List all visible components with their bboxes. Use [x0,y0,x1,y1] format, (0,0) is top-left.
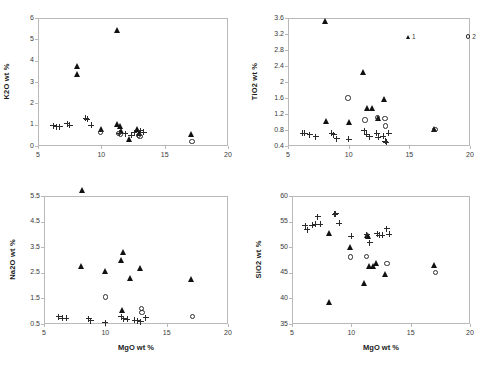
x-axis-tick-label: 20 [458,151,482,158]
plus-marker [334,136,340,142]
y-axis-tick-label: 2.8 [264,46,284,53]
plus-marker [317,221,323,227]
data-point-series-1 [188,131,194,137]
data-point-series-2 [433,270,438,275]
open-circle-marker [345,95,350,100]
y-axis-tick-label: 0 [16,142,34,149]
plus-marker [346,136,352,142]
y-axis-tick-label: 1.6 [264,94,284,101]
legend-item-1[interactable]: 1 [406,33,416,40]
filled-triangle-marker [326,299,332,305]
filled-triangle-marker [74,63,80,69]
data-point-series-3 [67,122,73,128]
filled-triangle-marker [360,69,366,75]
data-point-series-1 [188,276,194,282]
x-tickmark [349,146,350,149]
x-axis-tick-label: 10 [89,151,113,158]
open-circle-marker [189,139,194,144]
data-point-series-3 [88,318,94,324]
y-axis-title-bottom-right: SiO2 wt % [254,230,263,290]
open-circle-marker [348,254,353,259]
filled-triangle-marker [323,118,329,124]
data-point-series-3 [346,136,352,142]
data-point-series-1 [74,63,80,69]
legend-item-2[interactable]: 2 [466,33,476,40]
x-tickmark [38,146,39,149]
open-circle-marker [384,261,389,266]
y-tickmark [35,103,38,104]
y-axis-tick-label: 3.2 [264,30,284,37]
plot-area-bottom-left [44,196,228,324]
open-circle-marker [382,116,387,121]
x-axis-title-bottom-right: MgO wt % [292,343,470,352]
y-tickmark [35,125,38,126]
plus-marker [367,134,373,140]
open-circle-marker [375,115,380,120]
x-axis-tick-label: 15 [153,151,177,158]
y-tickmark [285,114,288,115]
y-axis-tick-label: 2 [264,78,284,85]
data-point-series-3 [348,233,354,239]
data-point-series-3 [88,122,94,128]
x-tickmark [44,324,45,327]
filled-triangle-marker [188,276,194,282]
plus-marker [383,139,389,145]
y-axis-tick-label: 60 [268,192,288,199]
data-point-series-3 [364,232,370,238]
x-axis-tick-label: 20 [216,151,240,158]
plus-marker [364,232,370,238]
filled-triangle-marker [78,263,84,269]
x-axis-tick-label: 5 [32,329,56,336]
data-point-series-3 [116,130,122,136]
data-point-series-1 [102,268,108,274]
data-point-series-1 [326,299,332,305]
y-tickmark [41,298,44,299]
data-point-series-1 [118,257,124,263]
plus-marker [379,232,385,238]
data-point-series-1 [114,27,120,33]
data-point-series-3 [333,211,339,217]
data-point-series-2 [189,139,194,144]
filled-triangle-marker [102,268,108,274]
filled-triangle-marker [347,244,353,250]
data-point-series-1 [360,69,366,75]
y-tickmark [285,18,288,19]
data-point-series-3 [367,240,373,246]
legend-label: 1 [412,33,416,40]
data-point-series-3 [383,139,389,145]
x-axis-tick-label: 10 [93,329,117,336]
y-tickmark [35,61,38,62]
data-point-series-2 [345,95,350,100]
y-tickmark [41,196,44,197]
x-tickmark [228,324,229,327]
open-circle-marker [362,117,367,122]
x-tickmark [351,324,352,327]
plus-marker [124,316,130,322]
data-point-series-1 [326,230,332,236]
data-point-series-3 [336,220,342,226]
data-point-series-3 [379,232,385,238]
y-tickmark [41,222,44,223]
plus-marker [143,315,149,321]
data-point-series-2 [382,116,387,121]
data-point-series-1 [78,263,84,269]
filled-triangle-marker [326,230,332,236]
plus-marker [102,320,108,326]
data-point-series-3 [367,134,373,140]
y-axis-tick-label: 0.4 [264,142,284,149]
x-axis-tick-label: 20 [458,329,482,336]
open-circle-marker [364,254,369,259]
x-axis-tick-label: 15 [397,151,421,158]
x-tickmark [228,146,229,149]
x-axis-title-bottom-left: MgO wt % [44,343,228,352]
data-point-series-1 [120,249,126,255]
filled-triangle-marker [114,27,120,33]
data-point-series-1 [79,187,85,193]
y-tickmark [41,247,44,248]
data-point-series-2 [364,254,369,259]
y-axis-tick-label: 2 [16,99,34,106]
x-tickmark [409,146,410,149]
open-circle-marker [190,314,195,319]
plus-marker [386,231,392,237]
data-point-series-2 [383,123,388,128]
